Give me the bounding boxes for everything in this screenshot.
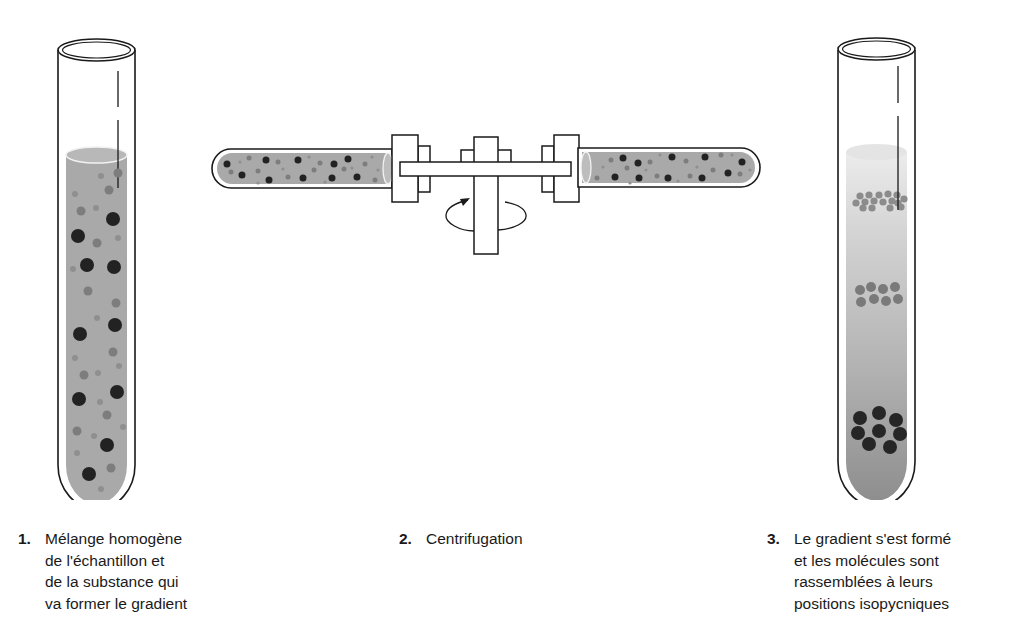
step-2-number: 2. <box>399 528 426 550</box>
step-2-caption: 2. Centrifugation <box>399 528 523 550</box>
step-2-label: Centrifugation <box>426 528 523 550</box>
step-3-label: Le gradient s'est formé et les molécules… <box>794 528 951 614</box>
rotor-arm <box>400 162 571 176</box>
step-3-caption: 3. Le gradient s'est formé et les molécu… <box>767 528 951 614</box>
step-1-caption: 1. Mélange homogène de l'échantillon et … <box>18 528 187 614</box>
tube-3-gradient-formed <box>838 38 915 500</box>
step-3-number: 3. <box>767 528 794 614</box>
centrifuge-tube-left <box>212 149 393 188</box>
tube-1-homogeneous-mixture <box>58 39 135 500</box>
step-1-number: 1. <box>18 528 45 614</box>
centrifuge-rotor <box>212 135 760 254</box>
centrifugation-diagram <box>0 0 1012 500</box>
step-1-label: Mélange homogène de l'échantillon et de … <box>45 528 187 614</box>
rotor-axis <box>474 137 498 254</box>
centrifuge-tube-right <box>578 148 760 187</box>
